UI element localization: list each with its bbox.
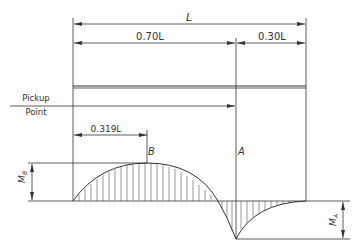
label-point-a: A — [237, 146, 245, 157]
label-point: Point — [25, 107, 47, 117]
label-moment-a: M A — [328, 214, 339, 226]
label-right-length: 0.30L — [258, 31, 286, 42]
svg-text:A: A — [332, 214, 339, 219]
positive-hatching — [79, 163, 211, 201]
negative-hatching — [222, 201, 295, 230]
label-pickup: Pickup — [22, 93, 49, 103]
svg-text:B: B — [21, 171, 28, 175]
label-point-b: B — [148, 146, 155, 157]
svg-text:M: M — [328, 218, 338, 226]
moment-diagram: L 0.70L 0.30L Pickup Point 0.319L B A M … — [0, 0, 354, 252]
svg-text:M: M — [17, 175, 27, 183]
label-peak-location: 0.319L — [91, 124, 122, 134]
label-moment-b: M B — [17, 171, 28, 183]
label-left-length: 0.70L — [136, 31, 164, 42]
label-total-length: L — [186, 11, 192, 24]
